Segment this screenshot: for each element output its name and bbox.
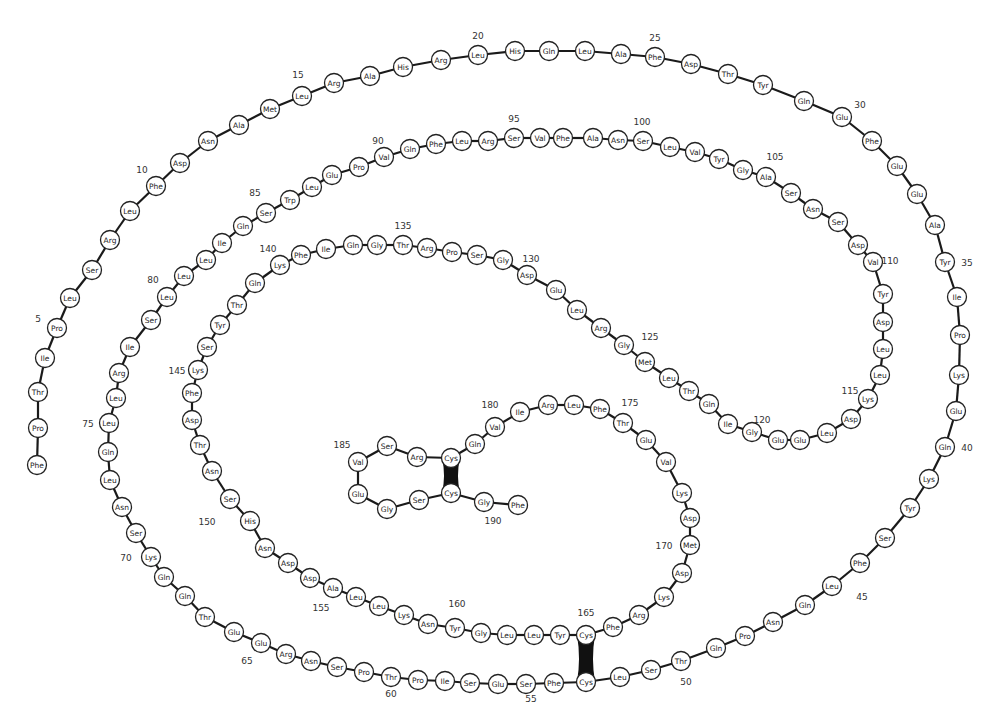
residue-label: Pro bbox=[739, 632, 751, 641]
residue-label: Ser bbox=[637, 137, 650, 146]
residue-label: Gly bbox=[746, 428, 759, 437]
residue-97: Phe bbox=[554, 129, 573, 148]
residue-label: Pro bbox=[358, 668, 370, 677]
residue-180: Val bbox=[486, 418, 505, 437]
disulfide-bridges bbox=[442, 458, 595, 682]
residue-label: Leu bbox=[177, 272, 191, 281]
residue-5: Pro bbox=[48, 319, 67, 338]
residue-63: Asn bbox=[302, 652, 321, 671]
residue-label: Cys bbox=[444, 489, 458, 498]
residue-73: Leu bbox=[101, 471, 120, 490]
residue-122: Gln bbox=[700, 395, 719, 414]
position-number: 20 bbox=[472, 31, 484, 41]
residue-label: Gln bbox=[179, 592, 192, 601]
residue-155: Ala bbox=[324, 579, 343, 598]
residue-111: Tyr bbox=[874, 285, 893, 304]
position-number: 155 bbox=[312, 603, 329, 613]
residue-126: Gly bbox=[615, 336, 634, 355]
residue-169: Asp bbox=[673, 564, 692, 583]
residue-label: Met bbox=[263, 105, 277, 114]
residue-label: Ile bbox=[724, 420, 733, 429]
residue-81: Leu bbox=[175, 267, 194, 286]
residue-label: Gly bbox=[381, 505, 394, 514]
residue-46: Gln bbox=[796, 596, 815, 615]
residue-label: Phe bbox=[30, 461, 44, 470]
residue-label: Ser bbox=[86, 266, 99, 275]
position-number: 110 bbox=[881, 256, 898, 266]
position-number: 145 bbox=[168, 366, 185, 376]
residue-label: Ala bbox=[364, 72, 376, 81]
residue-label: Val bbox=[378, 153, 389, 162]
residue-36: Ile bbox=[948, 288, 967, 307]
residue-label: Gln bbox=[404, 145, 417, 154]
residue-159: Asn bbox=[419, 615, 438, 634]
residue-191: Phe bbox=[509, 496, 528, 515]
position-number: 135 bbox=[394, 221, 411, 231]
residue-label: Gly bbox=[478, 498, 491, 507]
residue-label: Leu bbox=[109, 394, 123, 403]
residue-61: Pro bbox=[355, 663, 374, 682]
residue-label: Ile bbox=[516, 408, 525, 417]
residue-18: His bbox=[394, 58, 413, 77]
residue-80: Leu bbox=[158, 288, 177, 307]
residue-166: Phe bbox=[604, 618, 623, 637]
position-number: 60 bbox=[385, 689, 397, 699]
residue-150: Ser bbox=[221, 490, 240, 509]
residue-62: Ser bbox=[328, 658, 347, 677]
residue-145: Lys bbox=[189, 361, 208, 380]
residue-157: Leu bbox=[370, 597, 389, 616]
residue-label: Asn bbox=[806, 205, 820, 214]
position-number: 70 bbox=[120, 553, 132, 563]
residue-label: His bbox=[509, 47, 521, 56]
residue-69: Gln bbox=[155, 568, 174, 587]
residue-30: Glu bbox=[833, 108, 852, 127]
residue-129: Glu bbox=[547, 281, 566, 300]
residue-75: Leu bbox=[100, 414, 119, 433]
residue-188: Ser bbox=[410, 491, 429, 510]
residue-98: Ala bbox=[584, 129, 603, 148]
residue-92: Phe bbox=[427, 135, 446, 154]
residue-label: Pro bbox=[954, 331, 966, 340]
residue-89: Pro bbox=[350, 158, 369, 177]
residue-168: Lys bbox=[655, 588, 674, 607]
residue-71: Ser bbox=[127, 524, 146, 543]
position-number: 175 bbox=[621, 398, 638, 408]
residue-label: Leu bbox=[825, 582, 839, 591]
residue-label: Asp bbox=[675, 569, 689, 578]
position-number: 90 bbox=[372, 136, 384, 146]
residue-label: Leu bbox=[160, 293, 174, 302]
residue-163: Leu bbox=[525, 626, 544, 645]
residue-label: Asn bbox=[304, 657, 318, 666]
residue-label: Gln bbox=[799, 601, 812, 610]
residue-label: Ala bbox=[233, 121, 245, 130]
residue-label: Lys bbox=[192, 366, 204, 375]
residue-label: Pro bbox=[412, 676, 424, 685]
residue-149: Asn bbox=[203, 462, 222, 481]
residue-174: Glu bbox=[637, 431, 656, 450]
position-number: 85 bbox=[249, 188, 260, 198]
residue-70: Lys bbox=[142, 548, 161, 567]
residue-147: Asp bbox=[183, 411, 202, 430]
residue-label: Phe bbox=[429, 140, 443, 149]
residue-7: Ser bbox=[83, 261, 102, 280]
residue-78: Ile bbox=[121, 338, 140, 357]
residue-96: Val bbox=[531, 129, 550, 148]
position-number: 170 bbox=[655, 541, 672, 551]
residue-label: Gln bbox=[543, 47, 556, 56]
residue-label: Leu bbox=[455, 137, 469, 146]
residue-2: Pro bbox=[29, 419, 48, 438]
residue-33: Glu bbox=[908, 185, 927, 204]
residue-label: Arg bbox=[421, 244, 434, 253]
residue-106: Ser bbox=[782, 184, 801, 203]
residue-label: Asp bbox=[876, 318, 890, 327]
position-number: 130 bbox=[522, 254, 539, 264]
residue-label: Asp bbox=[281, 559, 295, 568]
residue-162: Leu bbox=[498, 626, 517, 645]
residue-label: Ala bbox=[760, 173, 772, 182]
residue-label: Leu bbox=[873, 371, 887, 380]
residue-label: Ser bbox=[832, 218, 845, 227]
position-number: 95 bbox=[508, 114, 519, 124]
position-number: 40 bbox=[961, 443, 973, 453]
residue-label: Phe bbox=[648, 53, 662, 62]
position-number: 65 bbox=[241, 656, 252, 666]
